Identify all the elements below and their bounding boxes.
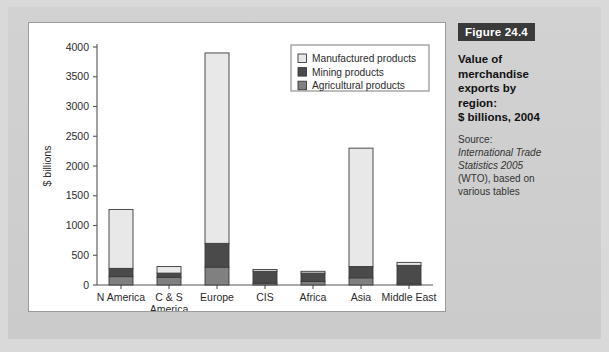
bar-segment	[301, 271, 325, 273]
bar-segment	[349, 148, 373, 266]
figure-title-line: Value of	[458, 52, 586, 67]
y-axis-tick-label: 2000	[66, 160, 90, 172]
x-axis-category-label: Middle East	[382, 291, 437, 303]
x-axis-category-label: Europe	[200, 291, 234, 303]
figure-source-label: Source:	[458, 133, 586, 146]
figure-title-line: region:	[458, 96, 586, 111]
bar-group	[109, 209, 133, 285]
figure-title-line: merchandise	[458, 67, 586, 82]
bar-segment	[109, 277, 133, 285]
bar-group	[253, 270, 277, 285]
figure-title-line: $ billions, 2004	[458, 110, 586, 125]
bar-group	[397, 262, 421, 285]
y-axis-tick-label: 500	[71, 249, 89, 261]
figure-page: 05001000150020002500300035004000$ billio…	[0, 0, 609, 352]
y-axis-tick-label: 3000	[66, 100, 90, 112]
legend-swatch	[298, 81, 307, 90]
y-axis-tick-label: 1500	[66, 189, 90, 201]
bar-segment	[205, 53, 229, 243]
bar-group	[205, 53, 229, 285]
bar-group	[301, 271, 325, 285]
figure-title: Value ofmerchandiseexports byregion:$ bi…	[458, 52, 586, 125]
bar-segment	[253, 271, 277, 283]
figure-title-line: exports by	[458, 81, 586, 96]
y-axis-title: $ billions	[41, 146, 53, 187]
figure-source-citation-line: Statistics 2005	[458, 159, 586, 172]
bar-segment	[205, 267, 229, 285]
x-axis-category-label: N America	[97, 291, 146, 303]
bar-segment	[157, 273, 181, 277]
x-axis-category-label: America	[150, 303, 189, 312]
bar-segment	[109, 268, 133, 276]
bar-segment	[157, 277, 181, 285]
legend-swatch	[298, 68, 307, 77]
legend-label: Mining products	[312, 67, 384, 78]
figure-side-panel: Figure 24.4 Value ofmerchandiseexports b…	[458, 22, 586, 312]
bar-segment	[397, 262, 421, 265]
bar-segment	[109, 209, 133, 268]
chart-card: 05001000150020002500300035004000$ billio…	[28, 22, 446, 312]
y-axis-tick-label: 3500	[66, 70, 90, 82]
bar-segment	[157, 267, 181, 274]
legend-label: Manufactured products	[312, 53, 416, 64]
figure-source-line: various tables	[458, 185, 586, 198]
bar-segment	[349, 278, 373, 285]
bar-group	[349, 148, 373, 285]
bar-segment	[397, 265, 421, 283]
figure-source-line: (WTO), based on	[458, 172, 586, 185]
bar-segment	[349, 267, 373, 278]
figure-source-citation-line: International Trade	[458, 146, 586, 159]
chart-plot-area: 05001000150020002500300035004000$ billio…	[29, 23, 445, 311]
y-axis-tick-label: 2500	[66, 130, 90, 142]
bar-segment	[301, 281, 325, 285]
figure-source: Source:International TradeStatistics 200…	[458, 133, 586, 198]
bar-segment	[301, 273, 325, 281]
x-axis-category-label: Asia	[351, 291, 372, 303]
bar-segment	[205, 243, 229, 267]
y-axis-tick-label: 1000	[66, 219, 90, 231]
x-axis-category-label: Africa	[300, 291, 327, 303]
x-axis-category-label: C & S	[155, 291, 182, 303]
legend-swatch	[298, 54, 307, 63]
bar-segment	[253, 270, 277, 272]
y-axis-tick-label: 4000	[66, 41, 90, 53]
legend-label: Agricultural products	[312, 80, 405, 91]
x-axis-category-label: CIS	[256, 291, 274, 303]
y-axis-tick-label: 0	[83, 279, 89, 291]
figure-number-badge: Figure 24.4	[458, 23, 535, 41]
stacked-bar-chart: 05001000150020002500300035004000$ billio…	[29, 23, 445, 311]
bar-group	[157, 267, 181, 285]
